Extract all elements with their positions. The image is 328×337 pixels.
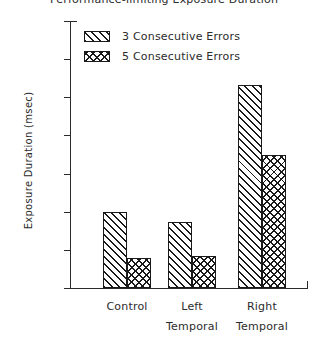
bar-control-series-1 — [103, 212, 127, 288]
legend-label: 3 Consecutive Errors — [122, 30, 240, 43]
chart-legend: 3 Consecutive Errors 5 Consecutive Error… — [84, 28, 240, 68]
x-axis-tick-label: RightTemporal — [212, 300, 312, 333]
y-axis-tick — [64, 174, 71, 175]
y-axis-tick — [64, 59, 71, 60]
legend-swatch-diagonal-hatch-icon — [84, 31, 110, 42]
bar-left-temporal-series-2 — [192, 256, 216, 288]
y-axis-label: Exposure Duration (msec) — [23, 71, 34, 251]
legend-label: 5 Consecutive Errors — [122, 50, 240, 63]
x-axis-line — [70, 288, 308, 289]
y-axis-tick — [64, 135, 71, 136]
y-axis-tick — [64, 97, 71, 98]
y-axis-tick — [64, 250, 71, 251]
bar-control-series-2 — [127, 258, 151, 289]
bar-right-temporal-series-2 — [262, 155, 286, 288]
y-axis-tick — [64, 288, 71, 289]
bar-left-temporal-series-1 — [168, 222, 192, 288]
x-axis-tick-label-line: Temporal — [212, 320, 312, 333]
y-axis-tick — [64, 21, 71, 22]
bar-right-temporal-series-1 — [238, 85, 262, 288]
legend-item: 5 Consecutive Errors — [84, 48, 240, 64]
chart-title: Performance-limiting Exposure Duration — [0, 0, 328, 6]
legend-item: 3 Consecutive Errors — [84, 28, 240, 44]
legend-swatch-cross-hatch-icon — [84, 51, 110, 62]
bar-chart-figure: Performance-limiting Exposure Duration E… — [0, 0, 328, 337]
x-axis-tick-label-line: Right — [212, 300, 312, 313]
y-axis-tick — [64, 212, 71, 213]
